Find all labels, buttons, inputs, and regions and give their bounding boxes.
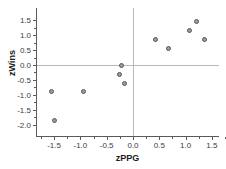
y-tick-7: [33, 125, 36, 126]
y-tick-5: [33, 95, 36, 96]
x-tick-label-2: -0.5: [94, 141, 120, 150]
data-point: [153, 37, 158, 42]
x-tick-5: [186, 137, 187, 140]
y-tick-1: [33, 35, 36, 36]
x-tick-label-3: 0.0: [120, 141, 146, 150]
data-point: [187, 28, 192, 33]
reference-line-vertical-zero: [133, 8, 134, 136]
x-tick-1: [80, 137, 81, 140]
x-tick-minor: [225, 137, 226, 139]
x-tick-label-0: -1.5: [41, 141, 67, 150]
x-tick-3: [133, 137, 134, 140]
data-point: [166, 46, 171, 51]
x-tick-label-5: 1.0: [173, 141, 199, 150]
y-tick-0: [33, 20, 36, 21]
x-tick-label-1: -1.0: [67, 141, 93, 150]
data-point: [81, 89, 86, 94]
x-tick-minor: [172, 137, 173, 139]
x-tick-minor: [41, 137, 42, 139]
reference-line-horizontal-zero: [37, 65, 219, 66]
x-tick-6: [212, 137, 213, 140]
x-tick-2: [107, 137, 108, 140]
y-tick-minor: [34, 58, 36, 59]
y-tick-2: [33, 50, 36, 51]
x-tick-minor: [67, 137, 68, 139]
y-tick-label-7: -2.0: [0, 121, 31, 130]
y-axis-title: zWins: [7, 35, 17, 91]
x-tick-label-4: 0.5: [146, 141, 172, 150]
x-tick-minor: [146, 137, 147, 139]
scatter-chart-figure: -1.5-1.0-0.50.00.51.01.5 1.51.00.50.0-0.…: [0, 0, 226, 169]
x-axis-line: [36, 136, 219, 137]
y-tick-3: [33, 65, 36, 66]
x-tick-4: [159, 137, 160, 140]
data-point: [52, 118, 57, 123]
plot-area: [36, 8, 218, 136]
x-axis-title: zPPG: [36, 153, 219, 163]
data-point: [202, 37, 207, 42]
x-tick-minor: [94, 137, 95, 139]
x-tick-minor: [120, 137, 121, 139]
y-tick-minor: [34, 28, 36, 29]
x-tick-0: [54, 137, 55, 140]
y-tick-minor: [34, 102, 36, 103]
x-tick-label-6: 1.5: [199, 141, 225, 150]
y-tick-label-6: -1.5: [0, 106, 31, 115]
y-tick-label-0: 1.5: [0, 16, 31, 25]
y-tick-minor: [34, 87, 36, 88]
x-tick-minor: [199, 137, 200, 139]
data-point: [194, 19, 199, 24]
y-tick-minor: [34, 117, 36, 118]
y-tick-minor: [34, 43, 36, 44]
data-point: [122, 81, 127, 86]
y-tick-label-5: -1.0: [0, 91, 31, 100]
y-axis-line: [36, 8, 37, 137]
y-tick-minor: [34, 72, 36, 73]
y-tick-4: [33, 80, 36, 81]
y-tick-6: [33, 110, 36, 111]
